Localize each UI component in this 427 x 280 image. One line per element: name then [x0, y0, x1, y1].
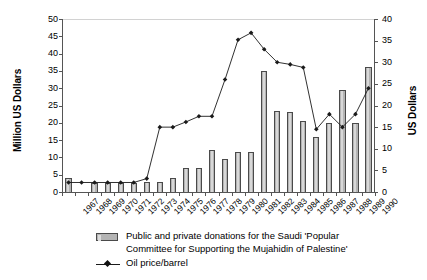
- y-axis-left-tick-30: 30: [0, 84, 58, 93]
- x-axis-tickmark: [375, 192, 376, 196]
- oil-price-marker-1970: [105, 180, 110, 185]
- y-axis-right-tick-10: 10: [382, 144, 398, 153]
- y-axis-left-tickmark: [59, 88, 63, 89]
- oil-price-marker-1967: [66, 180, 71, 185]
- oil-price-marker-1979: [223, 77, 228, 82]
- y-axis-right-tickmark: [374, 84, 378, 85]
- y-axis-left-tickmark: [59, 71, 63, 72]
- legend-diamond-marker-icon: [104, 260, 111, 267]
- oil-price-marker-1990: [366, 86, 371, 91]
- x-axis-tick-labels: 1967196819691970197119721973197419751976…: [62, 194, 375, 234]
- plot-area: [62, 19, 375, 193]
- y-axis-left-tick-20: 20: [0, 118, 58, 127]
- y-axis-right-tick-15: 15: [382, 123, 398, 132]
- legend-swatch-oil-price: [96, 260, 120, 269]
- y-axis-left-tickmark: [59, 123, 63, 124]
- y-axis-left-tick-15: 15: [0, 136, 58, 145]
- y-axis-right-title: US Dollars: [407, 56, 418, 166]
- oil-price-marker-1984: [288, 62, 293, 67]
- chart-figure: Million US Dollars US Dollars 0510152025…: [0, 0, 427, 280]
- oil-price-marker-1975: [171, 125, 176, 130]
- y-axis-right-tickmark: [374, 19, 378, 20]
- y-axis-left-tickmark: [59, 175, 63, 176]
- y-axis-right-tickmark: [374, 127, 378, 128]
- y-axis-right-tick-35: 35: [382, 36, 398, 45]
- oil-price-marker-1980: [236, 37, 241, 42]
- legend-swatch-highlight: [98, 235, 101, 241]
- y-axis-left-tick-50: 50: [0, 15, 58, 24]
- y-axis-right-tick-20: 20: [382, 101, 398, 110]
- y-axis-right-tickmark: [374, 170, 378, 171]
- legend-swatch-donations: [96, 233, 118, 241]
- y-axis-left-tick-25: 25: [0, 101, 58, 110]
- oil-price-marker-1972: [131, 180, 136, 185]
- y-axis-left-tick-0: 0: [0, 188, 58, 197]
- oil-price-marker-1974: [158, 125, 163, 130]
- y-axis-left-tickmark: [59, 54, 63, 55]
- y-axis-right-tickmark: [374, 62, 378, 63]
- oil-price-marker-1985: [301, 65, 306, 70]
- y-axis-left-tickmark: [59, 19, 63, 20]
- y-axis-left-tick-5: 5: [0, 170, 58, 179]
- y-axis-left-tick-35: 35: [0, 66, 58, 75]
- y-axis-left-tick-10: 10: [0, 153, 58, 162]
- line-series-oil-price: [62, 19, 375, 193]
- chart-legend: Public and private donations for the Sau…: [96, 230, 396, 276]
- y-axis-left-tick-40: 40: [0, 49, 58, 58]
- oil-price-marker-1968: [79, 180, 84, 185]
- y-axis-right-tick-0: 0: [382, 188, 398, 197]
- y-axis-right-tick-5: 5: [382, 166, 398, 175]
- legend-label-oil-price: Oil price/barrel: [126, 257, 188, 268]
- y-axis-right-tickmark: [374, 149, 378, 150]
- y-axis-left-tickmark: [59, 140, 63, 141]
- y-axis-right-tick-30: 30: [382, 58, 398, 67]
- oil-price-marker-1978: [210, 114, 215, 119]
- y-axis-left-tick-45: 45: [0, 32, 58, 41]
- oil-price-marker-1973: [144, 176, 149, 181]
- y-axis-right-tick-40: 40: [382, 15, 398, 24]
- y-axis-right-tickmark: [374, 41, 378, 42]
- y-axis-left-tickmark: [59, 36, 63, 37]
- oil-price-marker-1971: [118, 180, 123, 185]
- y-axis-right-tick-25: 25: [382, 79, 398, 88]
- y-axis-left-tickmark: [59, 106, 63, 107]
- oil-price-marker-1976: [184, 120, 189, 125]
- legend-label-donations-line2: Committee for Supporting the Mujahidin o…: [126, 243, 348, 254]
- y-axis-left-tickmark: [59, 157, 63, 158]
- y-axis-right-tickmark: [374, 106, 378, 107]
- oil-price-line: [69, 33, 369, 183]
- legend-label-donations-line1: Public and private donations for the Sau…: [126, 230, 339, 241]
- oil-price-marker-1977: [197, 114, 202, 119]
- oil-price-marker-1969: [92, 180, 97, 185]
